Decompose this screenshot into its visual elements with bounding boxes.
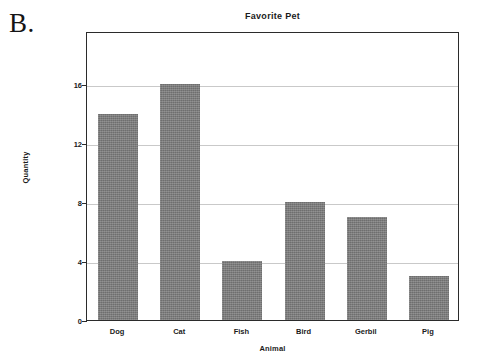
y-tick-label: 12 [60, 140, 82, 149]
bar-series [87, 33, 458, 320]
x-tick-label: Fish [210, 327, 272, 336]
y-tick-mark [82, 262, 87, 263]
x-tick-label: Bird [273, 327, 335, 336]
x-axis-label: Animal [86, 344, 459, 353]
y-tick-label: 4 [60, 258, 82, 267]
y-tick-mark [82, 85, 87, 86]
bar[interactable] [409, 276, 449, 320]
y-tick-label: 8 [60, 199, 82, 208]
plot-area [86, 32, 459, 321]
bar[interactable] [347, 217, 387, 320]
bar-slot [274, 33, 336, 320]
bar-chart: Favorite Pet Quantity 0481216 DogCatFish… [0, 0, 478, 361]
y-tick-mark [82, 144, 87, 145]
bar[interactable] [160, 84, 200, 320]
bar-slot [211, 33, 273, 320]
bar-slot [336, 33, 398, 320]
y-axis-tick-labels: 0481216 [56, 32, 82, 321]
bar-slot [398, 33, 460, 320]
bar-slot [87, 33, 149, 320]
y-tick-label: 16 [60, 81, 82, 90]
x-tick-label: Dog [86, 327, 148, 336]
bar-slot [149, 33, 211, 320]
bar[interactable] [98, 114, 138, 320]
y-tick-mark [82, 203, 87, 204]
x-tick-label: Pig [397, 327, 459, 336]
y-tick-mark [82, 321, 87, 322]
x-axis-tick-labels: DogCatFishBirdGerbilPig [86, 327, 459, 341]
y-tick-label: 0 [60, 317, 82, 326]
bar[interactable] [285, 202, 325, 320]
x-tick-label: Cat [148, 327, 210, 336]
y-axis-label: Quantity [21, 133, 30, 203]
x-tick-label: Gerbil [335, 327, 397, 336]
bar[interactable] [222, 261, 262, 320]
chart-title: Favorite Pet [86, 11, 459, 21]
